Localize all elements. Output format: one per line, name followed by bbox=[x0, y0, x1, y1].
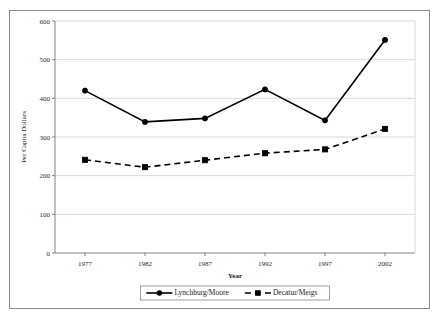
chart-figure: 0100200300400500600 19771982198719921997… bbox=[0, 0, 440, 319]
legend-label-1: Lynchburg/Moore bbox=[174, 288, 229, 297]
x-tick-label: 2002 bbox=[378, 260, 393, 268]
series-line-2 bbox=[85, 129, 385, 167]
data-point-marker bbox=[262, 151, 267, 156]
y-tick-label: 0 bbox=[47, 250, 51, 258]
data-point-marker bbox=[262, 87, 267, 92]
data-point-marker bbox=[142, 119, 147, 124]
x-tick-label: 1982 bbox=[138, 260, 153, 268]
y-tick-label: 500 bbox=[40, 56, 51, 64]
y-tick-label: 200 bbox=[40, 172, 51, 180]
line-chart-svg: 0100200300400500600 19771982198719921997… bbox=[0, 0, 440, 319]
data-point-marker bbox=[322, 147, 327, 152]
x-axis-tick-labels: 197719821987199219972002 bbox=[78, 253, 393, 268]
data-point-marker bbox=[382, 37, 387, 42]
data-point-marker bbox=[82, 157, 87, 162]
y-tick-label: 600 bbox=[40, 18, 51, 26]
legend-label-2: Decatur/Meigs bbox=[273, 288, 318, 297]
chart-legend: Lynchburg/MooreDecatur/Meigs bbox=[140, 286, 329, 300]
y-tick-label: 400 bbox=[40, 95, 51, 103]
data-point-marker bbox=[382, 126, 387, 131]
y-tick-label: 300 bbox=[40, 134, 51, 142]
data-point-marker bbox=[322, 118, 327, 123]
data-series-group bbox=[82, 37, 387, 169]
y-axis-tick-labels: 0100200300400500600 bbox=[40, 18, 56, 258]
x-tick-label: 1977 bbox=[78, 260, 93, 268]
data-point-marker bbox=[202, 158, 207, 163]
y-axis-title: Per Capita Dollars bbox=[20, 111, 28, 163]
legend-marker-square bbox=[255, 290, 261, 296]
x-tick-label: 1992 bbox=[258, 260, 273, 268]
x-tick-label: 1987 bbox=[198, 260, 213, 268]
plot-area-wrapper: 0100200300400500600 19771982198719921997… bbox=[0, 0, 440, 319]
data-point-marker bbox=[82, 88, 87, 93]
series-line-1 bbox=[85, 40, 385, 122]
gridlines-group bbox=[55, 21, 415, 214]
data-point-marker bbox=[142, 165, 147, 170]
data-point-marker bbox=[202, 116, 207, 121]
x-axis-title: Year bbox=[228, 272, 242, 280]
y-tick-label: 100 bbox=[40, 211, 51, 219]
x-tick-label: 1997 bbox=[318, 260, 333, 268]
legend-marker-circle bbox=[157, 290, 163, 296]
